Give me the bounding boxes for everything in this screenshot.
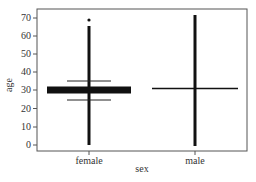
- y-axis: 0 10 20 30 40 50 60 70 age: [3, 12, 37, 150]
- y-tick-label: 0: [26, 139, 31, 150]
- y-tick-label: 40: [21, 66, 31, 77]
- boxplot-chart: 0 10 20 30 40 50 60 70 age female male s…: [0, 0, 256, 182]
- y-tick-label: 50: [21, 48, 31, 59]
- y-tick-label: 20: [21, 103, 31, 114]
- y-tick-label: 10: [21, 121, 31, 132]
- x-axis-label: sex: [135, 163, 148, 174]
- y-axis-label: age: [3, 78, 14, 92]
- x-tick-label-female: female: [75, 155, 103, 166]
- box-female: [47, 18, 131, 145]
- x-axis: female male sex: [75, 151, 205, 174]
- box-male: [152, 15, 238, 146]
- y-tick-label: 70: [21, 12, 31, 23]
- y-tick-label: 60: [21, 30, 31, 41]
- y-tick-label: 30: [21, 84, 31, 95]
- plot-frame: [37, 9, 247, 151]
- x-tick-label-male: male: [185, 155, 205, 166]
